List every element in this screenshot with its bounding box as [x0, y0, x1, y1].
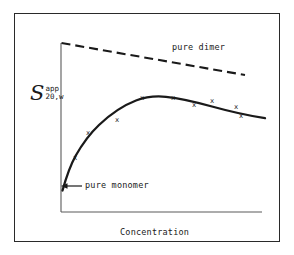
y-axis-subscript: 20,w	[45, 93, 63, 101]
data-marker: x	[192, 102, 196, 109]
pure-monomer-label: pure monomer	[85, 181, 149, 190]
plot-graphic	[0, 0, 294, 255]
x-axis-label: Concentration	[120, 228, 189, 237]
y-axis-symbol: S	[30, 85, 44, 103]
data-marker: x	[171, 95, 175, 102]
data-marker: x	[239, 113, 243, 120]
data-marker: x	[86, 130, 90, 137]
data-marker: x	[234, 104, 238, 111]
y-axis-label: S app 20,w	[30, 84, 63, 102]
sedimentation-curve	[63, 96, 266, 190]
data-marker: x	[140, 95, 144, 102]
figure-container: x x x x x x x x x S app 20,w pure dimer …	[0, 0, 294, 255]
pure-dimer-label: pure dimer	[172, 43, 225, 52]
data-marker: x	[115, 117, 119, 124]
y-axis-scripts: app 20,w	[45, 85, 63, 101]
data-marker: x	[73, 155, 77, 162]
data-marker: x	[210, 98, 214, 105]
